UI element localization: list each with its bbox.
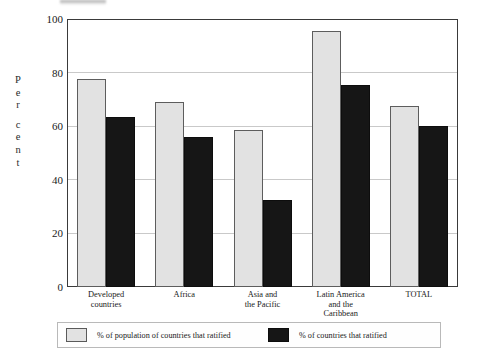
legend-item[interactable]: % of countries that ratified	[268, 328, 387, 342]
x-axis-label: Africa	[139, 290, 229, 300]
bar	[312, 31, 341, 287]
y-axis-tick-label: 20	[23, 227, 63, 239]
x-axis-label-line: countries	[61, 300, 151, 310]
bar	[234, 130, 263, 287]
legend-swatch-dark	[268, 328, 289, 342]
scan-artifact	[60, 0, 106, 5]
x-axis-label-line: Africa	[139, 290, 229, 300]
bar	[184, 137, 213, 287]
x-axis-label-line: and the	[296, 300, 386, 310]
x-axis-label: Asia andthe Pacific	[218, 290, 308, 309]
bars-layer	[67, 19, 458, 287]
x-axis-label: Latin Americaand theCaribbean	[296, 290, 386, 319]
x-axis-label-line: TOTAL	[374, 290, 464, 300]
y-axis-tick-label: 40	[23, 174, 63, 186]
bar	[106, 117, 135, 287]
bar	[263, 200, 292, 287]
x-axis-label-line: the Pacific	[218, 300, 308, 310]
x-axis-label-line: Latin America	[296, 290, 386, 300]
bar-chart: Percent 020406080100 DevelopedcountriesA…	[0, 0, 478, 361]
legend: % of population of countries that ratifi…	[57, 322, 441, 348]
bar	[419, 126, 448, 287]
x-axis-label: Developedcountries	[61, 290, 151, 309]
y-axis-tick-label: 100	[23, 13, 63, 25]
bar	[77, 79, 106, 287]
bar	[341, 85, 370, 287]
bar	[390, 106, 419, 287]
legend-label: % of population of countries that ratifi…	[97, 331, 231, 340]
legend-swatch-light	[66, 328, 87, 342]
legend-item[interactable]: % of population of countries that ratifi…	[66, 328, 231, 342]
y-axis-ticks: 020406080100	[20, 19, 63, 287]
y-axis-tick-label: 80	[23, 67, 63, 79]
y-axis-tick-label: 60	[23, 120, 63, 132]
bar	[155, 102, 184, 287]
legend-label: % of countries that ratified	[299, 331, 387, 340]
x-axis-label-line: Developed	[61, 290, 151, 300]
y-axis-tick-label: 0	[23, 281, 63, 293]
x-axis-label-line: Caribbean	[296, 309, 386, 319]
x-axis-label-line: Asia and	[218, 290, 308, 300]
x-axis-label: TOTAL	[374, 290, 464, 300]
